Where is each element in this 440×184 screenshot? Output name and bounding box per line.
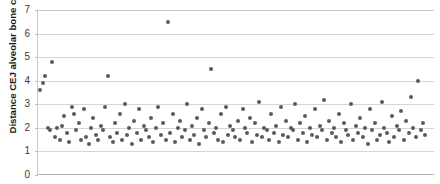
data-point: [375, 138, 379, 142]
data-point: [346, 133, 350, 137]
data-point: [108, 135, 112, 139]
gridline-y-4: [38, 81, 434, 82]
data-point: [385, 131, 389, 135]
data-point: [402, 138, 406, 142]
data-point: [48, 128, 52, 132]
data-point: [387, 140, 391, 144]
data-point: [65, 131, 69, 135]
data-point: [38, 88, 42, 92]
y-tick-mark-5: [35, 57, 38, 58]
data-point: [168, 131, 172, 135]
y-tick-mark-6: [35, 34, 38, 35]
data-point: [197, 142, 201, 146]
data-point: [320, 128, 324, 132]
data-point: [404, 119, 408, 123]
data-point: [214, 126, 218, 130]
data-point: [354, 124, 358, 128]
data-point: [41, 81, 45, 85]
gridline-y-5: [38, 57, 434, 58]
y-axis-tick-labels: 01234567: [16, 0, 30, 184]
data-point: [327, 119, 331, 123]
data-point: [118, 112, 122, 116]
data-point: [243, 126, 247, 130]
data-point: [380, 100, 384, 104]
data-point: [99, 124, 103, 128]
data-point: [58, 138, 62, 142]
data-point: [411, 126, 415, 130]
data-point: [265, 128, 269, 132]
data-point: [125, 133, 129, 137]
data-point: [120, 138, 124, 142]
data-point: [363, 126, 367, 130]
y-tick-mark-1: [35, 151, 38, 152]
data-point: [221, 140, 225, 144]
data-point: [373, 121, 377, 125]
data-point: [192, 133, 196, 137]
data-point: [231, 128, 235, 132]
data-point: [127, 126, 131, 130]
data-point: [91, 116, 95, 120]
data-point: [248, 116, 252, 120]
data-point: [416, 79, 420, 83]
data-point: [305, 140, 309, 144]
data-point: [414, 135, 418, 139]
y-tick-label-6: 6: [16, 29, 30, 39]
data-point: [149, 116, 153, 120]
data-point: [272, 131, 276, 135]
data-point: [132, 119, 136, 123]
data-point: [370, 128, 374, 132]
data-point: [286, 135, 290, 139]
data-point: [301, 131, 305, 135]
data-point: [106, 74, 110, 78]
data-point: [344, 128, 348, 132]
data-point: [96, 138, 100, 142]
data-point: [154, 126, 158, 130]
data-point: [195, 116, 199, 120]
y-tick-mark-7: [35, 10, 38, 11]
data-point: [147, 135, 151, 139]
gridline-y-6: [38, 34, 434, 35]
data-point: [291, 128, 295, 132]
data-point: [183, 128, 187, 132]
data-point: [207, 121, 211, 125]
data-point: [173, 140, 177, 144]
data-point: [103, 105, 107, 109]
data-point: [342, 121, 346, 125]
data-point: [233, 135, 237, 139]
data-point: [111, 140, 115, 144]
data-point: [308, 126, 312, 130]
data-point: [43, 74, 47, 78]
data-point: [421, 121, 425, 125]
data-point: [296, 138, 300, 142]
data-point: [361, 135, 365, 139]
data-point: [89, 126, 93, 130]
data-point: [188, 138, 192, 142]
data-point: [269, 112, 273, 116]
data-point: [279, 105, 283, 109]
data-point: [53, 135, 57, 139]
chart-title: the cranial axis: [0, 0, 440, 1]
data-point: [330, 131, 334, 135]
data-point: [392, 135, 396, 139]
plot-area: [37, 10, 434, 175]
data-point: [137, 107, 141, 111]
y-tick-mark-2: [35, 128, 38, 129]
data-point: [255, 133, 259, 137]
data-point: [395, 124, 399, 128]
gridline-y-7: [38, 10, 434, 11]
data-point: [332, 126, 336, 130]
data-point: [322, 98, 326, 102]
data-point: [351, 138, 355, 142]
data-point: [142, 124, 146, 128]
data-point: [144, 128, 148, 132]
data-point: [94, 133, 98, 137]
data-point: [378, 133, 382, 137]
y-tick-label-3: 3: [16, 99, 30, 109]
gridline-y-2: [38, 128, 434, 129]
data-point: [79, 138, 83, 142]
data-point: [82, 107, 86, 111]
data-point: [334, 135, 338, 139]
data-point: [423, 133, 427, 137]
data-point: [274, 124, 278, 128]
data-point: [101, 128, 105, 132]
